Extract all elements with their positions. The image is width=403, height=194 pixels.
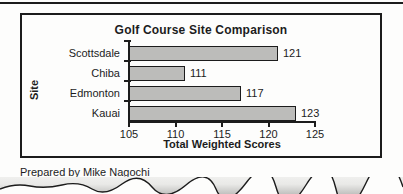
torn-edge-wave xyxy=(0,177,403,194)
value-label: 111 xyxy=(190,66,207,81)
bar-edmonton xyxy=(129,86,241,101)
value-label: 121 xyxy=(283,46,301,61)
x-axis-tick xyxy=(175,123,177,127)
category-label: Chiba xyxy=(36,66,120,81)
bar-scottsdale xyxy=(129,46,278,61)
bar-chiba xyxy=(129,66,185,81)
plot-area: Scottsdale121Chiba111Edmonton117Kauai123… xyxy=(22,15,380,156)
chart-frame: Golf Course Site Comparison Site Scottsd… xyxy=(20,13,382,158)
value-label: 117 xyxy=(246,86,264,101)
top-rule-line xyxy=(0,2,403,4)
y-axis-tick xyxy=(124,40,131,42)
x-axis-tick xyxy=(221,123,223,127)
scanned-page: Golf Course Site Comparison Site Scottsd… xyxy=(0,0,403,194)
category-label: Edmonton xyxy=(36,86,120,101)
x-axis-tick xyxy=(314,123,316,127)
category-label: Scottsdale xyxy=(36,46,120,61)
category-label: Kauai xyxy=(36,106,120,121)
x-axis-label: Total Weighted Scores xyxy=(129,138,315,150)
value-label: 123 xyxy=(301,106,319,121)
x-axis-tick xyxy=(128,123,130,127)
bar-kauai xyxy=(129,106,296,121)
x-axis-tick xyxy=(268,123,270,127)
